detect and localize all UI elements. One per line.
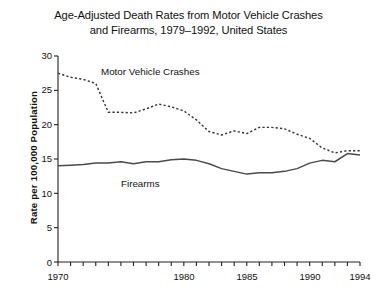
line-motor-vehicle-crashes (58, 73, 360, 153)
axes (58, 56, 360, 262)
y-axis-ticks (54, 56, 58, 262)
x-axis-ticks (58, 262, 360, 266)
chart-figure: Age-Adjusted Death Rates from Motor Vehi… (0, 0, 377, 303)
line-firearms (58, 154, 360, 175)
plot-area (0, 0, 377, 303)
